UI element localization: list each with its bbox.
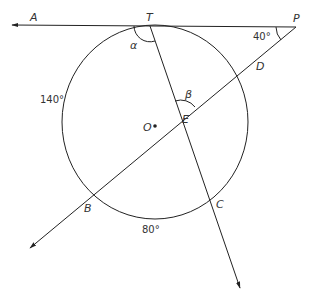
label-arc-bottom: 80° <box>142 224 160 235</box>
label-D: D <box>256 60 264 73</box>
label-beta: β <box>184 88 192 101</box>
angle-beta-arc <box>175 100 195 107</box>
geometry-diagram: A T P D E O B C α β 40° 140° 80° <box>0 0 312 296</box>
secant-line-TC <box>150 26 240 288</box>
angle-P-arc <box>276 27 281 40</box>
label-alpha: α <box>130 39 138 52</box>
label-arc-left: 140° <box>40 94 64 105</box>
center-dot <box>153 124 157 128</box>
label-P: P <box>293 12 300 25</box>
label-E: E <box>182 113 189 126</box>
label-O: O <box>143 121 152 134</box>
label-B: B <box>84 202 92 215</box>
label-C: C <box>216 198 224 211</box>
circle <box>62 25 248 219</box>
label-angle-P: 40° <box>253 31 271 42</box>
label-T: T <box>146 11 154 24</box>
label-A: A <box>29 11 38 24</box>
